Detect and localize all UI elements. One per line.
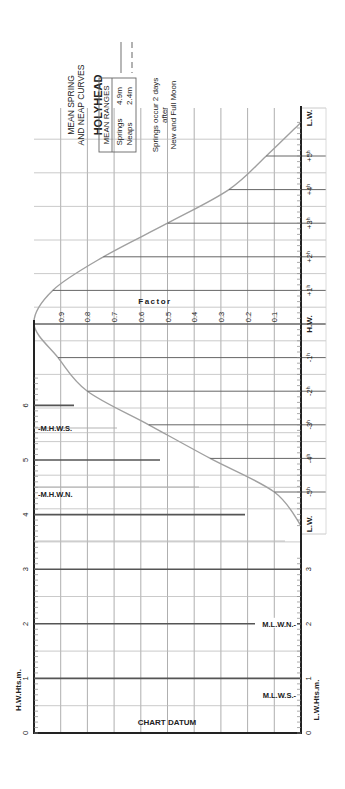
lw-height-tick-0: 0 (304, 731, 313, 735)
legend-springs-label: Springs (115, 118, 124, 145)
time-tick--4: -4ʰ (305, 454, 314, 464)
time-tick-+5: +5ʰ (305, 150, 314, 162)
legend-neaps-label: Neaps (125, 122, 134, 145)
springs-note-line-1: Springs occur 2 days (151, 78, 160, 153)
springs-note-line-3: New and Full Moon (169, 81, 178, 150)
hw-height-tick-2: 2 (21, 622, 30, 626)
legend-springs-value: 4.9m (115, 87, 124, 105)
hw-height-tick-4: 4 (21, 513, 30, 517)
subtitle-line-1: MEAN SPRING (66, 75, 76, 135)
hw-height-tick-6: 6 (21, 403, 30, 407)
time-tick-+4: +4ʰ (305, 184, 314, 196)
mhwn-label: -M.H.W.N. (38, 490, 73, 499)
tidal-curve-svg: HOLYHEADMEAN SPRINGAND NEAP CURVESMEAN R… (0, 0, 345, 789)
subtitle-line-2: AND NEAP CURVES (76, 64, 86, 145)
factor-tick-0.3: 0.3 (217, 312, 226, 322)
hour-lines (34, 108, 326, 534)
factor-tick-0.8: 0.8 (83, 312, 92, 322)
hw-height-tick-0: 0 (21, 731, 30, 735)
hw-height-tick-3: 3 (21, 567, 30, 571)
time-tick--5: -5ʰ (305, 487, 314, 497)
grid (34, 108, 326, 733)
factor-label: Factor (138, 297, 171, 306)
hw-height-tick-5: 5 (21, 458, 30, 462)
lw-height-tick-3: 3 (304, 567, 313, 571)
factor-tick-0.1: 0.1 (270, 312, 279, 322)
lw-bottom-label: L.W. (305, 516, 314, 532)
lw-heights-axis-label: L.W.Hts.m. (312, 680, 321, 721)
factor-tick-0.7: 0.7 (110, 312, 119, 322)
mlwn-label: M.L.W.N.- (262, 620, 296, 629)
chart-datum-label: CHART DATUM (138, 718, 197, 727)
time-tick-+1: +1ʰ (305, 285, 314, 297)
factor-tick-0.4: 0.4 (190, 312, 199, 322)
time-tick--2: -2ʰ (305, 386, 314, 396)
time-tick-+3: +3ʰ (305, 217, 314, 229)
hw-heights-axis-label: H.W.Hts.m. (14, 669, 23, 711)
hw-label: H.W. (305, 315, 314, 332)
time-tick-+2: +2ʰ (305, 251, 314, 263)
legend-header: MEAN RANGES (102, 85, 111, 144)
factor-tick-0.2: 0.2 (244, 312, 253, 322)
tidal-curve-diagram: HOLYHEADMEAN SPRINGAND NEAP CURVESMEAN R… (0, 0, 345, 789)
legend-neaps-value: 2.4m (125, 87, 134, 105)
mlws-label: M.L.W.S.- (263, 691, 297, 700)
factor-tick-0.9: 0.9 (57, 312, 66, 322)
time-tick--1: -1ʰ (305, 353, 314, 363)
factor-tick-0.6: 0.6 (137, 312, 146, 322)
factor-tick-0.5: 0.5 (164, 312, 173, 322)
lw-top-label: L.W. (305, 110, 314, 126)
time-tick--3: -3ʰ (305, 420, 314, 430)
springs-note-line-2: after (160, 107, 169, 123)
lw-height-tick-2: 2 (304, 622, 313, 626)
mhws-label: -M.H.W.S. (38, 424, 72, 433)
